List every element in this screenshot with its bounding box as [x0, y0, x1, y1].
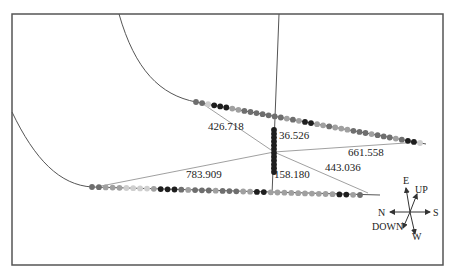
survey-station	[272, 114, 278, 120]
survey-station	[254, 189, 260, 195]
survey-station	[375, 132, 381, 138]
distance-label: 783.909	[186, 168, 222, 180]
survey-station	[309, 191, 315, 197]
line-661-558	[274, 142, 420, 152]
survey-station	[193, 99, 199, 105]
survey-station	[332, 125, 338, 131]
lower-well-curve	[12, 112, 92, 187]
survey-station	[308, 120, 314, 126]
survey-station	[178, 187, 184, 193]
survey-station	[192, 187, 198, 193]
survey-station	[227, 188, 233, 194]
down-arrow	[403, 212, 410, 228]
survey-station	[103, 185, 109, 191]
survey-station	[350, 192, 356, 198]
survey-station	[242, 108, 248, 114]
survey-station	[213, 188, 219, 194]
survey-station	[89, 184, 95, 190]
survey-station	[266, 112, 272, 118]
survey-station	[233, 188, 239, 194]
survey-station	[282, 190, 288, 196]
survey-station	[261, 189, 267, 195]
survey-station	[363, 130, 369, 136]
survey-station	[351, 128, 357, 134]
survey-station	[417, 140, 423, 146]
upper-well-curve	[119, 14, 196, 102]
survey-station	[337, 192, 343, 198]
survey-station	[248, 109, 254, 115]
survey-station	[124, 185, 130, 191]
survey-station	[268, 189, 274, 195]
survey-station	[326, 124, 332, 130]
compass-label-down: DOWN	[372, 221, 403, 232]
survey-station	[284, 116, 290, 122]
distance-label: 443.036	[325, 161, 361, 173]
survey-station	[144, 186, 150, 192]
compass-rose: EUPNSDOWNW	[372, 175, 439, 242]
survey-station	[393, 136, 399, 142]
survey-station	[316, 191, 322, 197]
compass-label-up: UP	[415, 184, 428, 195]
survey-station	[330, 191, 336, 197]
survey-station	[205, 101, 211, 107]
distance-label: 426.718	[208, 120, 244, 132]
survey-station	[211, 102, 217, 108]
survey-station	[137, 186, 143, 192]
survey-station	[288, 190, 294, 196]
survey-station	[247, 189, 253, 195]
survey-station	[165, 186, 171, 192]
survey-station	[275, 190, 281, 196]
survey-station	[302, 119, 308, 125]
survey-station	[302, 191, 308, 197]
survey-station	[405, 138, 411, 144]
compass-label-e: E	[403, 175, 409, 186]
survey-station	[96, 184, 102, 190]
survey-station	[357, 129, 363, 135]
survey-station	[260, 111, 266, 117]
well-trajectory-diagram: 426.71836.526661.558783.909158.180443.03…	[0, 0, 450, 275]
survey-station	[399, 137, 405, 143]
east-arrow	[406, 188, 410, 212]
survey-station	[158, 186, 164, 192]
survey-station	[290, 117, 296, 123]
survey-station	[295, 190, 301, 196]
survey-station	[199, 100, 205, 106]
survey-station	[323, 191, 329, 197]
survey-station	[314, 121, 320, 127]
distance-label: 158.180	[274, 168, 310, 180]
compass-label-s: S	[433, 207, 439, 218]
survey-station	[130, 185, 136, 191]
distance-label: 36.526	[279, 129, 310, 141]
survey-station	[172, 187, 178, 193]
survey-station	[185, 187, 191, 193]
survey-station	[110, 185, 116, 191]
survey-station	[343, 192, 349, 198]
survey-station	[151, 186, 157, 192]
survey-station	[411, 139, 417, 145]
distance-label: 661.558	[348, 146, 384, 158]
survey-station	[240, 189, 246, 195]
survey-station	[217, 104, 223, 110]
compass-label-w: W	[412, 231, 422, 242]
line-783-909	[96, 152, 274, 187]
survey-station	[254, 110, 260, 116]
survey-station	[357, 192, 363, 198]
survey-station	[345, 127, 351, 133]
compass-label-n: N	[378, 207, 385, 218]
survey-station	[381, 134, 387, 140]
survey-station	[236, 107, 242, 113]
survey-station	[278, 115, 284, 121]
up-arrow	[410, 194, 417, 212]
survey-station	[117, 185, 123, 191]
survey-station	[199, 187, 205, 193]
survey-station	[206, 188, 212, 194]
survey-station	[229, 106, 235, 112]
survey-station	[223, 105, 229, 111]
survey-station	[369, 131, 375, 137]
survey-station	[320, 122, 326, 128]
survey-station	[338, 126, 344, 132]
survey-station	[220, 188, 226, 194]
survey-station	[296, 118, 302, 124]
survey-station	[387, 135, 393, 141]
